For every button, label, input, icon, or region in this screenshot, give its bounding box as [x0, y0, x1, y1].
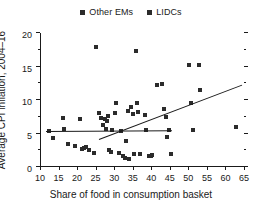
data-point	[160, 82, 164, 86]
data-point	[94, 45, 98, 49]
data-point	[197, 63, 201, 67]
y-minor-tick	[244, 82, 246, 83]
x-tick-label: 10	[35, 174, 45, 183]
x-tick	[151, 167, 152, 170]
y-tick	[36, 66, 40, 67]
data-point	[162, 107, 166, 111]
y-minor-tick	[244, 116, 246, 117]
y-minor-tick	[38, 149, 40, 150]
data-point	[165, 135, 169, 139]
y-tick	[36, 32, 40, 33]
legend-item-other-ems: Other EMs	[80, 8, 133, 17]
x-tick-label: 30	[109, 174, 119, 183]
data-point	[191, 128, 195, 132]
x-tick	[188, 167, 189, 170]
data-point	[136, 110, 140, 114]
data-point	[187, 63, 191, 67]
data-point	[150, 153, 154, 157]
x-axis-title: Share of food in consumption basket	[0, 190, 262, 200]
data-point	[73, 144, 77, 148]
data-point	[155, 83, 159, 87]
data-point	[134, 49, 138, 53]
plot-area: 101520253035404550556065 05101520	[40, 33, 244, 167]
legend-swatch-lidcs	[147, 10, 152, 15]
data-point	[131, 112, 135, 116]
x-tick-label: 20	[72, 174, 82, 183]
y-tick-label: 20	[22, 31, 32, 35]
x-tick	[170, 167, 171, 170]
data-point	[234, 125, 238, 129]
legend-label-other-ems: Other EMs	[89, 8, 133, 17]
y-tick-label: 15	[22, 65, 32, 69]
data-point	[129, 105, 133, 109]
x-tick	[96, 167, 97, 170]
data-point	[126, 109, 130, 113]
x-tick-label: 50	[183, 174, 193, 183]
y-axis-title: Average CPI inflation, 2004–16	[0, 31, 7, 169]
y-tick	[244, 32, 248, 33]
x-tick-label: 55	[202, 174, 212, 183]
data-point	[164, 115, 168, 119]
y-tick-label: 10	[22, 98, 32, 102]
data-point	[78, 117, 82, 121]
y-tick	[36, 133, 40, 134]
y-minor-tick	[244, 149, 246, 150]
x-axis-line	[40, 166, 244, 167]
y-tick	[244, 66, 248, 67]
data-point	[198, 88, 202, 92]
data-point	[113, 111, 117, 115]
data-point	[135, 101, 139, 105]
y-minor-tick	[38, 116, 40, 117]
data-point	[127, 157, 131, 161]
x-tick	[244, 167, 245, 170]
data-point	[169, 152, 173, 156]
y-minor-tick	[38, 49, 40, 50]
y-tick	[36, 166, 40, 167]
y-tick-label: 5	[27, 132, 32, 136]
data-point	[61, 116, 65, 120]
y-tick	[244, 99, 248, 100]
x-tick	[40, 167, 41, 170]
y-minor-tick	[38, 82, 40, 83]
x-tick	[59, 167, 60, 170]
y-minor-tick	[244, 49, 246, 50]
y-tick	[244, 166, 248, 167]
y-tick-label: 0	[27, 165, 32, 169]
data-point	[51, 136, 55, 140]
x-tick	[225, 167, 226, 170]
legend-item-lidcs: LIDCs	[147, 8, 182, 17]
data-point	[132, 152, 136, 156]
data-point	[106, 114, 110, 118]
data-point	[105, 119, 109, 123]
x-tick	[207, 167, 208, 170]
data-point	[87, 148, 91, 152]
x-tick-label: 65	[239, 174, 249, 183]
trend-line	[46, 130, 172, 132]
legend-label-lidcs: LIDCs	[156, 8, 182, 17]
scatter-chart: Other EMs LIDCs 101520253035404550556065…	[0, 0, 262, 213]
x-tick-label: 45	[165, 174, 175, 183]
x-tick-label: 40	[146, 174, 156, 183]
data-point	[92, 151, 96, 155]
data-point	[97, 111, 101, 115]
data-point	[66, 142, 70, 146]
data-point	[124, 139, 128, 143]
data-point	[143, 113, 147, 117]
x-tick	[114, 167, 115, 170]
y-tick	[244, 133, 248, 134]
y-axis-line	[40, 33, 41, 167]
data-point	[114, 101, 118, 105]
x-tick-label: 60	[220, 174, 230, 183]
legend-swatch-other-ems	[80, 10, 85, 15]
x-tick-label: 35	[128, 174, 138, 183]
data-point	[109, 150, 113, 154]
x-tick	[77, 167, 78, 170]
chart-legend: Other EMs LIDCs	[0, 8, 262, 17]
x-tick-label: 25	[91, 174, 101, 183]
data-point	[138, 152, 142, 156]
x-tick	[133, 167, 134, 170]
x-tick-label: 15	[54, 174, 64, 183]
y-tick	[36, 99, 40, 100]
